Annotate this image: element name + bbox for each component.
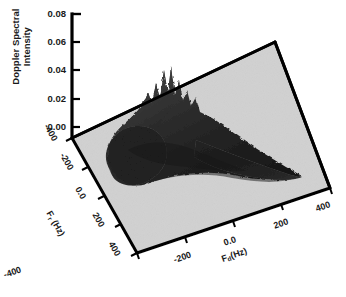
z-axis-title-line2: Intensity (21, 27, 32, 66)
z-axis-title: Doppler Spectral Intensity (11, 0, 32, 95)
z-tick-label-0.02: 0.02 (34, 94, 66, 104)
doppler-spectral-intensity-3d-plot: Doppler Spectral Intensity 0.08 0.06 0.0… (0, 0, 346, 297)
z-tick-label-0.06: 0.06 (34, 37, 66, 47)
z-axis-line (72, 14, 81, 138)
z-axis-title-line1: Doppler Spectral (10, 9, 21, 85)
z-tick-label-0.08: 0.08 (34, 9, 66, 19)
z-tick-label-0.04: 0.04 (34, 65, 66, 75)
